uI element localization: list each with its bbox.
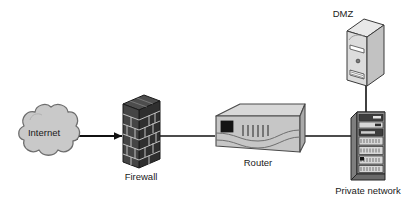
network-diagram: Internet <box>0 0 411 209</box>
router-port <box>221 121 233 132</box>
node-label-firewall: Firewall <box>125 171 158 182</box>
brick-wall-icon <box>123 95 160 168</box>
node-label-router: Router <box>244 157 273 168</box>
server-rack-icon <box>351 112 385 180</box>
node-internet[interactable]: Internet <box>19 105 80 156</box>
rack-modules <box>359 115 383 173</box>
node-router[interactable]: Router <box>216 104 305 168</box>
pc-tower-icon <box>347 19 384 86</box>
node-firewall[interactable]: Firewall <box>123 95 160 182</box>
node-dmz[interactable]: DMZ <box>333 8 384 86</box>
diagram-canvas: Internet <box>0 0 411 209</box>
node-label-internet: Internet <box>28 127 61 138</box>
router-icon <box>216 104 305 152</box>
node-label-private-network: Private network <box>335 185 401 196</box>
node-label-dmz: DMZ <box>333 8 354 19</box>
node-private-network[interactable]: Private network <box>335 112 401 196</box>
